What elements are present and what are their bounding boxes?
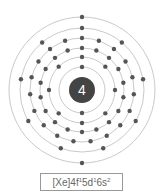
electron — [80, 15, 84, 19]
electron — [43, 67, 47, 71]
electron — [113, 88, 117, 92]
electron — [141, 77, 145, 81]
config-6s: 6s2 — [97, 177, 111, 188]
electron — [65, 48, 69, 52]
electron — [19, 77, 23, 81]
electron — [56, 111, 60, 115]
electron — [26, 119, 30, 123]
electron — [116, 109, 120, 113]
electron — [80, 130, 84, 134]
electron — [132, 92, 136, 96]
bohr-diagram: 4 — [0, 0, 164, 195]
electron — [71, 139, 75, 143]
electron — [107, 56, 111, 60]
electron — [43, 109, 47, 113]
electron — [47, 88, 51, 92]
electron — [105, 134, 109, 138]
electron — [53, 120, 57, 124]
electron — [63, 39, 67, 43]
electron — [80, 36, 84, 40]
electron — [40, 40, 44, 44]
electron — [36, 59, 40, 63]
electron — [133, 119, 137, 123]
electron — [29, 75, 33, 79]
config-4f: 4f1 — [70, 177, 82, 188]
electron — [56, 64, 60, 68]
electron — [42, 123, 46, 127]
electron — [55, 134, 59, 138]
electron — [80, 65, 84, 69]
electron — [123, 59, 127, 63]
electron-configuration: [Xe] 4f1 5d1 6s2 — [40, 173, 123, 191]
electron — [103, 64, 107, 68]
electron — [80, 46, 84, 50]
electron — [80, 111, 84, 115]
electron — [53, 56, 57, 60]
electron — [116, 67, 120, 71]
electron — [38, 81, 42, 85]
electron — [101, 146, 105, 150]
config-core: [Xe] — [53, 177, 71, 188]
electron — [94, 127, 98, 131]
electron — [118, 123, 122, 127]
electron — [120, 40, 124, 44]
config-5d: 5d1 — [82, 177, 96, 188]
electron — [80, 26, 84, 30]
electron — [121, 95, 125, 99]
electron — [80, 121, 84, 125]
electron — [28, 92, 32, 96]
electron — [107, 120, 111, 124]
electron — [97, 39, 101, 43]
electron — [121, 81, 125, 85]
electron — [80, 161, 84, 165]
electron — [59, 146, 63, 150]
electron — [48, 47, 52, 51]
electron — [38, 95, 42, 99]
electron — [32, 109, 36, 113]
electron — [65, 127, 69, 131]
electron — [103, 111, 107, 115]
electron — [127, 109, 131, 113]
electron — [94, 48, 98, 52]
electron — [88, 139, 92, 143]
nucleus-label: 4 — [78, 82, 86, 98]
electron — [130, 75, 134, 79]
electron — [80, 55, 84, 59]
electron — [112, 47, 116, 51]
